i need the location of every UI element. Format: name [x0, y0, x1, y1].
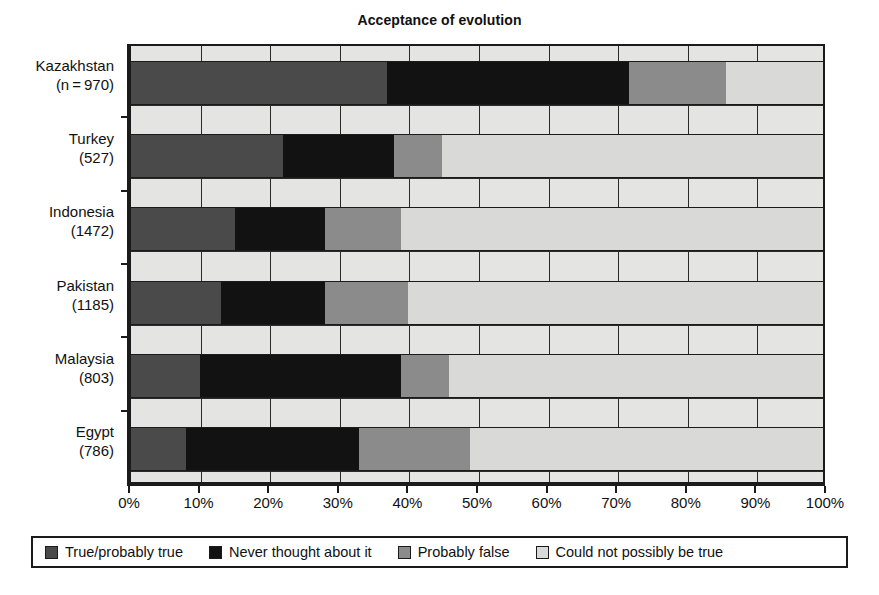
row-separator: [131, 325, 823, 326]
bar-segment-3: [442, 135, 823, 177]
x-axis-tick: [754, 486, 756, 493]
x-axis-tick: [198, 486, 200, 493]
bar-malaysia: [131, 354, 823, 398]
gridline: [549, 46, 550, 482]
x-axis-tick: [406, 486, 408, 493]
plot-area: [129, 44, 825, 484]
gridline: [757, 46, 758, 482]
bar-egypt: [131, 427, 823, 471]
x-axis-tick: [546, 486, 548, 493]
legend-item-1[interactable]: Never thought about it: [209, 544, 372, 560]
gridline: [618, 46, 619, 482]
bar-segment-2: [359, 428, 470, 470]
gridline: [688, 46, 689, 482]
chart-title: Acceptance of evolution: [0, 12, 879, 28]
gridline: [340, 46, 341, 482]
x-axis-tick-label: 0%: [118, 494, 140, 511]
y-axis-label-sample-size: (803): [0, 368, 114, 387]
y-axis-label-egypt: Egypt(786): [0, 422, 114, 460]
bar-segment-1: [283, 135, 394, 177]
bar-segment-1: [235, 208, 325, 250]
bar-segment-2: [401, 355, 449, 397]
bar-segment-0: [131, 428, 186, 470]
y-axis-label-country: Egypt: [76, 423, 114, 440]
bar-segment-3: [449, 355, 823, 397]
bar-indonesia: [131, 207, 823, 251]
row-separator: [131, 398, 823, 399]
y-axis-label-pakistan: Pakistan(1185): [0, 276, 114, 314]
x-axis-tick: [128, 486, 130, 493]
x-axis-tick-label: 50%: [462, 494, 492, 511]
bar-segment-1: [186, 428, 359, 470]
bar-segment-2: [325, 282, 408, 324]
y-axis-label-sample-size: (786): [0, 441, 114, 460]
bar-segment-0: [131, 208, 235, 250]
chart-legend: True/probably trueNever thought about it…: [31, 536, 848, 568]
y-axis-tick: [121, 336, 129, 338]
legend-item-label: Probably false: [418, 544, 510, 560]
y-axis-label-indonesia: Indonesia(1472): [0, 202, 114, 240]
x-axis-tick-label: 70%: [601, 494, 631, 511]
x-axis-tick-label: 90%: [740, 494, 770, 511]
gridline: [409, 46, 410, 482]
x-axis-tick: [476, 486, 478, 493]
bar-segment-0: [131, 355, 200, 397]
y-axis-label-sample-size: (1472): [0, 221, 114, 240]
legend-item-0[interactable]: True/probably true: [45, 544, 183, 560]
row-separator: [131, 105, 823, 106]
bar-segment-0: [131, 282, 221, 324]
x-axis-tick: [615, 486, 617, 493]
bar-segment-3: [401, 208, 823, 250]
bar-segment-3: [726, 62, 823, 104]
legend-swatch-icon: [398, 546, 411, 559]
bar-pakistan: [131, 281, 823, 325]
x-axis-tick-label: 40%: [392, 494, 422, 511]
legend-item-3[interactable]: Could not possibly be true: [536, 544, 724, 560]
legend-swatch-icon: [209, 546, 222, 559]
y-axis-label-country: Malaysia: [55, 350, 114, 367]
y-axis-tick: [121, 263, 129, 265]
bar-segment-2: [394, 135, 442, 177]
row-separator: [131, 178, 823, 179]
y-axis-label-country: Kazakhstan: [36, 57, 114, 74]
legend-item-label: Never thought about it: [229, 544, 372, 560]
bar-turkey: [131, 134, 823, 178]
row-separator: [131, 471, 823, 472]
gridline: [479, 46, 480, 482]
x-axis-tick-label: 100%: [806, 494, 844, 511]
legend-item-label: True/probably true: [65, 544, 183, 560]
legend-swatch-icon: [536, 546, 549, 559]
bar-segment-2: [629, 62, 726, 104]
row-separator: [131, 251, 823, 252]
bar-segment-1: [387, 62, 629, 104]
y-axis-tick: [121, 410, 129, 412]
y-axis-tick: [121, 116, 129, 118]
x-axis-tick-label: 10%: [184, 494, 214, 511]
x-axis-tick-label: 80%: [671, 494, 701, 511]
legend-swatch-icon: [45, 546, 58, 559]
y-axis-label-kazakhstan: Kazakhstan(n = 970): [0, 56, 114, 94]
chart-container: Acceptance of evolution Kazakhstan(n = 9…: [0, 0, 879, 595]
gridline: [201, 46, 202, 482]
bar-segment-3: [408, 282, 823, 324]
bar-segment-1: [221, 282, 325, 324]
y-axis-labels: Kazakhstan(n = 970)Turkey(527)Indonesia(…: [0, 44, 124, 484]
y-axis-label-turkey: Turkey(527): [0, 129, 114, 167]
x-axis-tick: [267, 486, 269, 493]
y-axis-label-malaysia: Malaysia(803): [0, 349, 114, 387]
x-axis-tick-label: 20%: [253, 494, 283, 511]
bar-segment-2: [325, 208, 401, 250]
bar-segment-3: [470, 428, 823, 470]
y-axis-label-sample-size: (527): [0, 148, 114, 167]
bar-segment-0: [131, 62, 387, 104]
gridline: [270, 46, 271, 482]
y-axis-tick: [121, 190, 129, 192]
bar-segment-1: [200, 355, 401, 397]
y-axis-label-country: Indonesia: [49, 203, 114, 220]
legend-item-2[interactable]: Probably false: [398, 544, 510, 560]
bar-segment-0: [131, 135, 283, 177]
y-axis-label-sample-size: (n = 970): [0, 75, 114, 94]
y-axis-line: [127, 44, 129, 486]
x-axis-tick: [337, 486, 339, 493]
y-axis-label-sample-size: (1185): [0, 295, 114, 314]
